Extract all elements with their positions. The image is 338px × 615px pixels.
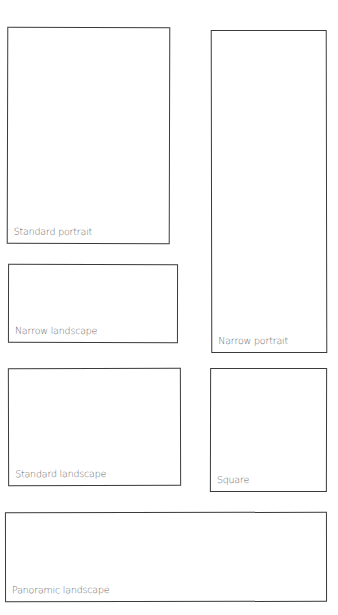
frame-panoramic-landscape: Panoramic landscape bbox=[5, 512, 327, 602]
frame-narrow-portrait: Narrow portrait bbox=[211, 30, 328, 353]
frame-label: Narrow portrait bbox=[218, 335, 288, 346]
frame-label: Standard landscape bbox=[15, 468, 106, 479]
frame-label: Panoramic landscape bbox=[12, 584, 109, 595]
frame-label: Standard portrait bbox=[14, 226, 92, 237]
frame-standard-portrait: Standard portrait bbox=[7, 27, 171, 244]
frame-label: Narrow landscape bbox=[15, 325, 97, 336]
frame-narrow-landscape: Narrow landscape bbox=[8, 264, 178, 343]
frame-label: Square bbox=[217, 474, 249, 485]
frame-standard-landscape: Standard landscape bbox=[8, 368, 181, 486]
frame-square: Square bbox=[210, 368, 327, 492]
